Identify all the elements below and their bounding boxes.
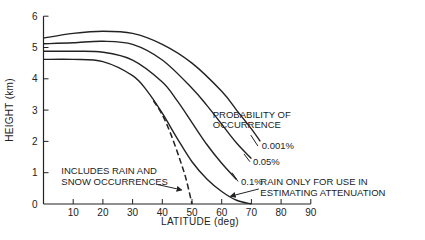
y-tick-label: 0 — [32, 199, 38, 210]
y-tick-label: 1 — [32, 167, 38, 178]
leader-line — [232, 173, 238, 182]
annotation-text: 0.001% — [262, 140, 295, 151]
y-tick-label: 6 — [32, 11, 38, 22]
y-tick-label: 3 — [32, 105, 38, 116]
x-tick-label: 90 — [305, 207, 317, 218]
annotation-text: OCCURRENCE — [213, 119, 281, 130]
annotation-arrows — [158, 135, 259, 196]
chart-canvas: 0123456102030405060708090 PROBABILITY OF… — [0, 0, 425, 240]
y-tick-label: 2 — [32, 136, 38, 147]
rain-snow-arrow — [158, 185, 182, 190]
y-tick-label: 5 — [32, 42, 38, 53]
x-tick-label: 70 — [246, 207, 258, 218]
y-tick-label: 4 — [32, 73, 38, 84]
annotation-text: ESTIMATING ATTENUATION — [260, 187, 385, 198]
x-tick-label: 80 — [276, 207, 288, 218]
annotation-text: SNOW OCCURRENCES — [61, 176, 168, 187]
annotation-text: RAIN ONLY FOR USE IN — [260, 176, 367, 187]
leader-line — [244, 154, 250, 162]
x-tick-label: 30 — [127, 207, 139, 218]
series-line-2 — [44, 51, 237, 179]
x-tick-label: 10 — [68, 207, 80, 218]
annotation-text: 0.05% — [253, 156, 280, 167]
x-tick-label: 20 — [97, 207, 109, 218]
rain-only-arrow — [231, 189, 259, 196]
annotation-text: INCLUDES RAIN AND — [61, 165, 157, 176]
annotation-layer: PROBABILITY OFOCCURRENCE0.001%0.05%0.1%R… — [61, 109, 385, 198]
x-axis-title: LATITUDE (deg) — [161, 216, 239, 227]
y-axis-title: HEIGHT (km) — [4, 78, 15, 142]
